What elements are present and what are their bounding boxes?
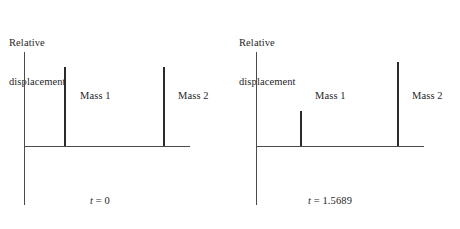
y-axis-label-left-line1: Relative (9, 36, 66, 49)
bar-mass-1-right (300, 111, 302, 146)
y-axis-label-right-line2: displacement (239, 75, 296, 88)
time-label-left: t = 0 (90, 195, 110, 206)
figure-container: Relative displacement Mass 1 Mass 2 t = … (0, 0, 460, 229)
panel-left: Relative displacement Mass 1 Mass 2 t = … (0, 0, 230, 229)
mass-2-label-left: Mass 2 (178, 90, 209, 101)
vertical-axis-left (24, 52, 25, 205)
time-equals-left: = (93, 195, 104, 206)
mass-1-label-right: Mass 1 (315, 90, 346, 101)
time-value-left: 0 (105, 195, 110, 206)
time-value-right: 1.5689 (323, 195, 352, 206)
y-axis-label-right: Relative displacement (239, 10, 296, 114)
bar-mass-2-left (163, 67, 165, 146)
mass-2-label-right: Mass 2 (412, 90, 443, 101)
vertical-axis-right (256, 52, 257, 205)
panel-right: Relative displacement Mass 1 Mass 2 t = … (230, 0, 460, 229)
bar-mass-2-right (397, 62, 399, 146)
bar-mass-1-left (64, 67, 66, 146)
time-label-right: t = 1.5689 (308, 195, 352, 206)
y-axis-label-right-line1: Relative (239, 36, 296, 49)
y-axis-label-left: Relative displacement (9, 10, 66, 114)
horizontal-axis-right (256, 146, 424, 147)
y-axis-label-left-line2: displacement (9, 75, 66, 88)
mass-1-label-left: Mass 1 (80, 90, 111, 101)
time-equals-right: = (311, 195, 322, 206)
horizontal-axis-left (24, 146, 190, 147)
